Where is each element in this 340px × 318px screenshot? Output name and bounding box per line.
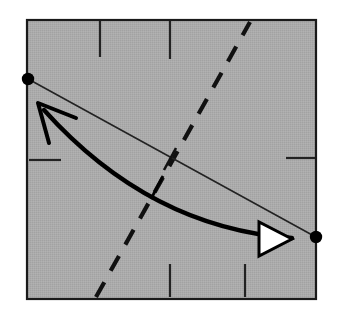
geometric-diagram bbox=[0, 0, 340, 318]
figure-container: Curved arrow and straight chord between … bbox=[0, 0, 340, 318]
left-endpoint-dot bbox=[22, 73, 34, 85]
right-endpoint-dot bbox=[310, 231, 322, 243]
